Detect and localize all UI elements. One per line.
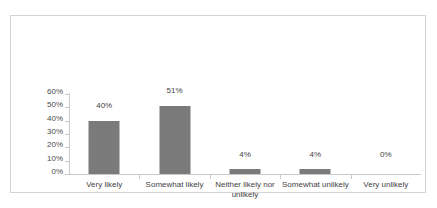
bar-value-label: 40% [96, 101, 112, 110]
bar-group-somewhat-likely: 51% [139, 46, 209, 174]
plot-area: 40% 51% 4% 4% 0% [69, 46, 421, 174]
bar-very-likely[interactable] [89, 121, 120, 174]
chart-border-frame: 60% 50% 40% 30% 20% 10% 0% 40% [10, 15, 426, 193]
y-axis-tick-labels: 60% 50% 40% 30% 20% 10% 0% [25, 88, 63, 180]
bar-group-neither-likely-nor-unlikely: 4% [210, 46, 280, 174]
y-axis-tick-label: 10% [25, 155, 63, 163]
y-axis-tick-label: 50% [25, 101, 63, 109]
y-axis-tick-label: 20% [25, 141, 63, 149]
x-axis-category-label-neither-likely-nor-unlikely: Neither likely nor unlikely [210, 180, 280, 199]
x-axis-category-label-very-likely: Very likely [69, 180, 139, 190]
y-axis-tick-label: 0% [25, 168, 63, 176]
x-axis-category-tick [351, 175, 352, 179]
bar-chart-figure: 60% 50% 40% 30% 20% 10% 0% 40% [0, 0, 437, 208]
bar-neither-likely-nor-unlikely[interactable] [229, 169, 260, 174]
bar-value-label: 51% [167, 86, 183, 95]
x-axis-category-tick [280, 175, 281, 179]
x-axis-category-label-very-unlikely: Very unlikely [351, 180, 421, 190]
y-axis-tick-label: 30% [25, 128, 63, 136]
bar-value-label: 4% [310, 150, 322, 159]
x-axis-category-tick [210, 175, 211, 179]
y-axis-tick-label: 40% [25, 115, 63, 123]
y-axis-tick-label: 60% [25, 88, 63, 96]
x-axis-category-label-somewhat-unlikely: Somewhat unlikely [280, 180, 350, 190]
bar-group-very-unlikely: 0% [351, 46, 421, 174]
bar-somewhat-unlikely[interactable] [300, 169, 331, 174]
bar-somewhat-likely[interactable] [159, 106, 190, 174]
x-axis-category-labels: Very likely Somewhat likely Neither like… [69, 180, 421, 208]
x-axis-category-tick [139, 175, 140, 179]
x-axis-line [69, 174, 421, 175]
bar-group-very-likely: 40% [69, 46, 139, 174]
x-axis-category-label-somewhat-likely: Somewhat likely [138, 180, 211, 190]
bar-group-somewhat-unlikely: 4% [280, 46, 350, 174]
bar-value-label: 4% [239, 150, 251, 159]
bar-value-label: 0% [380, 150, 392, 159]
